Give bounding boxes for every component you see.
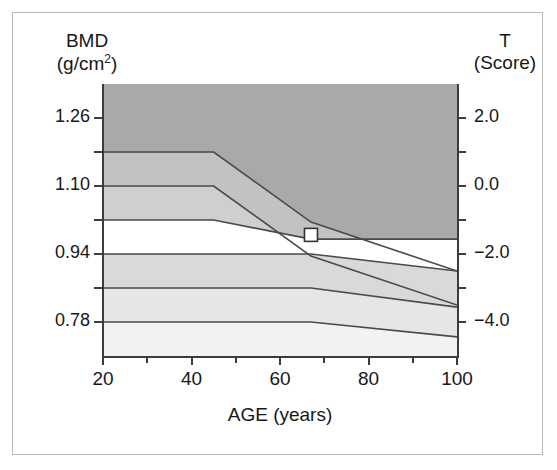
y-tick-right-major-3 xyxy=(457,321,466,323)
x-tick-label-0: 20 xyxy=(92,368,113,390)
y-tick-left-major-2 xyxy=(94,253,103,255)
left-axis-header: BMD (g/cm2) xyxy=(22,30,152,76)
left-axis-unit-pre: (g/cm xyxy=(57,54,105,75)
y-tick-label-right-2: −2.0 xyxy=(474,242,548,263)
y-tick-right-major-0 xyxy=(457,117,466,119)
y-tick-label-right-1: 0.0 xyxy=(474,174,548,195)
left-axis-unit-post: ) xyxy=(111,54,117,75)
figure-root: BMD (g/cm2) T (Score) 1.261.100.940.782.… xyxy=(0,0,557,470)
x-tick-minor-1 xyxy=(235,357,237,363)
y-tick-label-left-1: 1.10 xyxy=(24,174,90,195)
right-axis-header-line2: (Score) xyxy=(455,52,555,74)
y-tick-right-major-2 xyxy=(457,253,466,255)
y-tick-left-major-3 xyxy=(94,321,103,323)
x-tick-label-3: 80 xyxy=(358,368,379,390)
y-tick-left-minor-0 xyxy=(94,151,103,153)
x-tick-minor-2 xyxy=(323,357,325,363)
x-tick-minor-3 xyxy=(412,357,414,363)
y-tick-label-left-2: 0.94 xyxy=(24,242,90,263)
y-tick-right-minor-0 xyxy=(457,151,466,153)
y-tick-left-major-1 xyxy=(94,185,103,187)
right-axis-header-line1: T xyxy=(455,30,555,52)
y-tick-left-major-0 xyxy=(94,117,103,119)
left-axis-header-line2: (g/cm2) xyxy=(22,52,152,76)
y-tick-label-right-0: 2.0 xyxy=(474,106,548,127)
x-tick-label-4: 100 xyxy=(441,368,473,390)
x-tick-major-1 xyxy=(191,357,193,365)
x-tick-major-2 xyxy=(279,357,281,365)
y-tick-right-minor-1 xyxy=(457,219,466,221)
y-tick-left-minor-1 xyxy=(94,219,103,221)
plot-area xyxy=(103,84,457,356)
x-tick-major-3 xyxy=(368,357,370,365)
x-tick-label-2: 60 xyxy=(269,368,290,390)
x-axis-title: AGE (years) xyxy=(103,404,457,426)
x-tick-label-1: 40 xyxy=(181,368,202,390)
reference-band-chart xyxy=(103,84,457,356)
y-tick-label-left-3: 0.78 xyxy=(24,310,90,331)
y-tick-label-left-0: 1.26 xyxy=(24,106,90,127)
x-tick-minor-0 xyxy=(146,357,148,363)
y-tick-left-minor-2 xyxy=(94,287,103,289)
left-axis-unit-superscript: 2 xyxy=(104,52,111,66)
y-tick-right-minor-2 xyxy=(457,287,466,289)
x-tick-major-4 xyxy=(456,357,458,365)
right-axis-header: T (Score) xyxy=(455,30,555,75)
x-tick-major-0 xyxy=(102,357,104,365)
y-tick-right-major-1 xyxy=(457,185,466,187)
y-tick-label-right-3: −4.0 xyxy=(474,310,548,331)
left-axis-header-line1: BMD xyxy=(22,30,152,52)
